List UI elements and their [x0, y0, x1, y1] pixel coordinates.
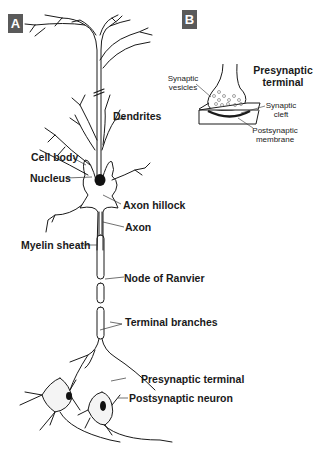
- panel-a-tag: A: [8, 14, 23, 33]
- label-myelin-sheath: Myelin sheath: [21, 239, 90, 251]
- label-presynaptic-terminal: Presynaptic terminal: [141, 373, 244, 385]
- label-terminal-branches: Terminal branches: [125, 316, 218, 328]
- label-axon-hillock: Axon hillock: [123, 199, 185, 211]
- label-cell-body: Cell body: [31, 151, 78, 163]
- label-presynaptic-terminal-title: Presynaptic terminal: [248, 64, 314, 88]
- label-postsynaptic-membrane: Postsynaptic membrane: [251, 126, 299, 144]
- nucleus: [95, 174, 106, 186]
- panel-b-tag: B: [182, 10, 197, 29]
- label-nucleus: Nucleus: [30, 172, 71, 184]
- label-synaptic-vesicles: Synaptic vesicles: [166, 74, 200, 92]
- myelin-segments: [97, 235, 104, 339]
- label-postsynaptic-neuron: Postsynaptic neuron: [129, 392, 233, 404]
- leader-lines: [66, 158, 128, 398]
- label-synaptic-cleft: Synaptic cleft: [264, 101, 298, 119]
- label-node-of-ranvier: Node of Ranvier: [124, 272, 205, 284]
- label-dendrites: Dendrites: [113, 110, 161, 122]
- label-axon: Axon: [125, 221, 151, 233]
